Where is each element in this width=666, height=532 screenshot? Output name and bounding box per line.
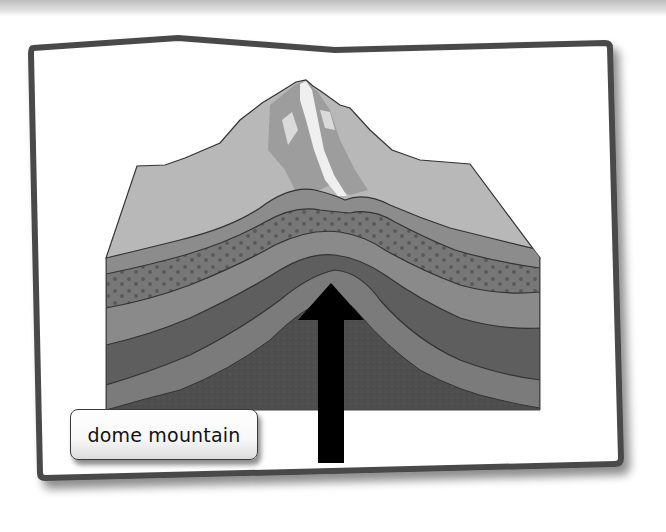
label-text: dome mountain: [87, 424, 240, 446]
dome-mountain-label: dome mountain: [70, 409, 258, 460]
